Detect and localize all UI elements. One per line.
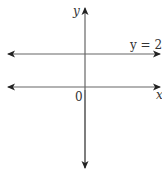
y-axis-label: y xyxy=(72,4,80,18)
x-axis-label: x xyxy=(156,88,162,102)
origin-label: 0 xyxy=(75,90,83,104)
equation-label: y = 2 xyxy=(129,38,162,52)
coordinate-plane: y y = 2 0 x xyxy=(0,0,162,174)
